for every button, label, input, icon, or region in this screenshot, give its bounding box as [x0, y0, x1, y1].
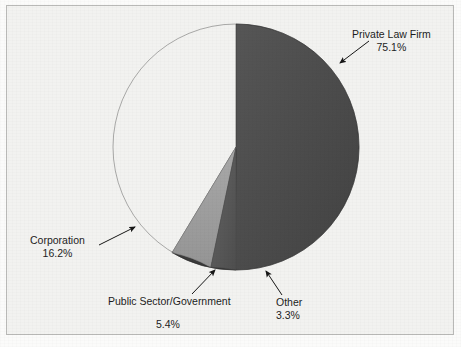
label-public-sector-government: Public Sector/Government: [108, 295, 231, 308]
leader-line-other: [266, 271, 282, 295]
label-public-sector-government-name: Public Sector/Government: [108, 295, 231, 307]
label-other: Other 3.3%: [276, 296, 302, 322]
label-private-law-firm-value: 75.1%: [352, 41, 431, 54]
leader-line-corporation: [99, 227, 135, 245]
label-corporation-value: 16.2%: [30, 247, 85, 260]
label-private-law-firm: Private Law Firm 75.1%: [352, 28, 431, 54]
label-other-name: Other: [276, 296, 302, 308]
label-other-value: 3.3%: [276, 309, 302, 322]
label-private-law-firm-name: Private Law Firm: [352, 28, 431, 40]
label-public-sector-government-value: 5.4%: [156, 318, 180, 330]
pie-slice-private-law-firm[interactable]: [235, 24, 359, 270]
chart-page: Private Law Firm 75.1% Corporation 16.2%…: [0, 0, 461, 347]
label-corporation-name: Corporation: [30, 234, 85, 246]
label-corporation: Corporation 16.2%: [30, 234, 85, 260]
label-public-sector-government-value-wrap: 5.4%: [156, 318, 180, 331]
leader-line-public-sector-government: [192, 270, 215, 294]
